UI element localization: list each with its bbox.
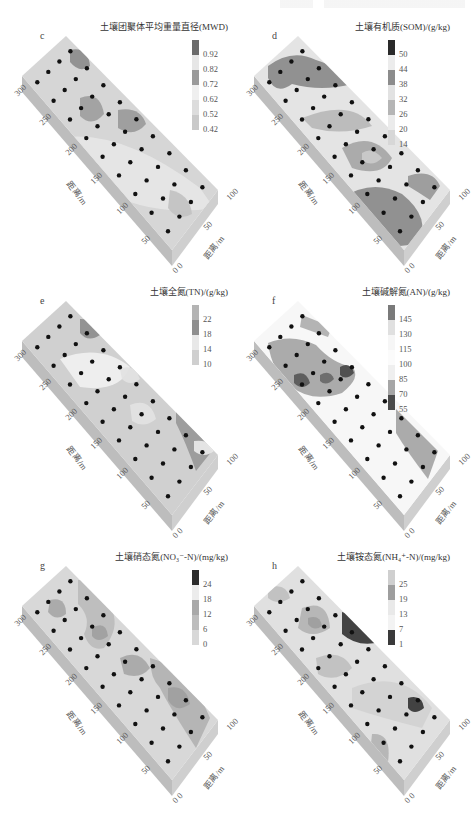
legend-tick: 145: [399, 315, 412, 324]
legend-tick: 14: [203, 345, 212, 354]
legend-tick: 19: [399, 595, 408, 604]
legend-tick: 12: [203, 610, 212, 619]
legend-tick: 38: [399, 80, 408, 89]
panel-letter: c: [40, 30, 44, 41]
legend-tick: 13: [399, 610, 408, 619]
isometric-map-d: [232, 18, 464, 283]
legend-tick: 24: [203, 580, 212, 589]
legend-swatch: [192, 630, 199, 645]
legend-swatch: [192, 55, 199, 70]
legend-tick: 0.72: [203, 80, 218, 89]
legend-swatch: [388, 600, 395, 615]
legend-tick: 130: [399, 330, 412, 339]
legend-tick: 55: [399, 405, 408, 414]
legend-tick: 18: [203, 595, 212, 604]
legend-swatch: [192, 570, 199, 585]
legend-swatch: [388, 305, 395, 320]
legend-title: 土壤碱解氮(AN)/(g/kg): [362, 285, 451, 298]
legend-swatch: [192, 305, 199, 320]
legend-swatch: [388, 335, 395, 350]
panel-letter: e: [40, 295, 44, 306]
legend-swatch: [192, 335, 199, 350]
legend-swatch: [388, 320, 395, 335]
legend-swatch: [388, 570, 395, 585]
legend-tick: 0.62: [203, 95, 218, 104]
legend-tick: 7: [399, 625, 403, 634]
legend-swatch: [388, 395, 395, 410]
legend-title: 土壤全氮(TN)/(g/kg): [150, 285, 229, 298]
legend-tick: 26: [399, 110, 408, 119]
isometric-map-h: [232, 548, 464, 813]
chart-panel-g: g土壤硝态氮(NO₃⁻-N)/(mg/kg)241812603002502001…: [0, 548, 232, 813]
legend-swatch: [192, 585, 199, 600]
panel-letter: g: [40, 560, 45, 571]
legend-tick: 18: [203, 330, 212, 339]
legend-swatch: [388, 365, 395, 380]
legend-tick: 20: [399, 125, 408, 134]
legend-swatch: [192, 85, 199, 100]
chart-panel-e: e土壤全氮(TN)/(g/kg)221814103002502001501005…: [0, 283, 232, 548]
chart-panel-c: c土壤团聚体平均重量直径(MWD)0.920.820.720.620.520.4…: [0, 18, 232, 283]
legend-swatch: [388, 100, 395, 115]
chart-panel-f: f土壤碱解氮(AN)/(g/kg)14513011510085705530025…: [232, 283, 464, 548]
chart-panel-d: d土壤有机质(SOM)/(g/kg)5044383226201430025020…: [232, 18, 464, 283]
running-header: [280, 0, 465, 8]
panel-letter: h: [272, 560, 277, 571]
legend-tick: 22: [203, 315, 212, 324]
legend-title: 土壤硝态氮(NO₃⁻-N)/(mg/kg): [115, 550, 228, 563]
legend-swatch: [388, 115, 395, 130]
legend-tick: 32: [399, 95, 408, 104]
legend-tick: 0.52: [203, 110, 218, 119]
legend-swatch: [388, 130, 395, 145]
legend-tick: 115: [399, 345, 411, 354]
legend-swatch: [192, 100, 199, 115]
legend-tick: 6: [203, 625, 207, 634]
legend-swatch: [388, 380, 395, 395]
legend-swatch: [388, 615, 395, 630]
legend-swatch: [388, 630, 395, 645]
isometric-map-f: [232, 283, 464, 548]
legend-swatch: [388, 350, 395, 365]
legend-swatch: [192, 350, 199, 365]
legend-swatch: [192, 115, 199, 130]
legend-tick: 0.82: [203, 65, 218, 74]
legend-swatch: [192, 320, 199, 335]
panel-letter: f: [272, 295, 275, 306]
legend-swatch: [388, 85, 395, 100]
legend-tick: 0.42: [203, 125, 218, 134]
legend-swatch: [388, 40, 395, 55]
legend-title: 土壤有机质(SOM)/(g/kg): [355, 20, 450, 33]
legend-tick: 10: [203, 360, 212, 369]
legend-swatch: [192, 40, 199, 55]
legend-tick: 0: [203, 640, 207, 649]
legend-tick: 85: [399, 375, 408, 384]
legend-tick: 70: [399, 390, 408, 399]
legend-swatch: [388, 70, 395, 85]
legend-swatch: [192, 600, 199, 615]
legend-swatch: [388, 55, 395, 70]
chart-panel-h: h土壤铵态氮(NH₄⁺-N)/(mg/kg)251913713002502001…: [232, 548, 464, 813]
legend-swatch: [192, 615, 199, 630]
legend-tick: 0.92: [203, 50, 218, 59]
legend-tick: 100: [399, 360, 412, 369]
legend-title: 土壤团聚体平均重量直径(MWD): [100, 20, 228, 33]
legend-swatch: [192, 70, 199, 85]
legend-tick: 44: [399, 65, 408, 74]
legend-tick: 14: [399, 140, 408, 149]
legend-swatch: [388, 585, 395, 600]
legend-tick: 25: [399, 580, 408, 589]
legend-tick: 1: [399, 640, 403, 649]
legend-title: 土壤铵态氮(NH₄⁺-N)/(mg/kg): [337, 550, 450, 563]
panel-letter: d: [272, 30, 277, 41]
legend-tick: 50: [399, 50, 408, 59]
